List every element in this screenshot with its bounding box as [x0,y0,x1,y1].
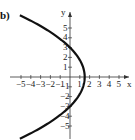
x-tick-label: −5 [16,80,26,89]
y-tick-label: −2 [60,92,70,101]
x-tick-label: 1 [77,80,82,89]
y-tick-label: −3 [60,102,70,111]
x-tick-label: 5 [117,80,122,89]
x-tick-label: 4 [107,80,112,89]
x-tick-label: −3 [36,80,46,89]
y-tick-label: 5 [63,24,68,33]
y-tick-label: 4 [63,33,68,42]
y-tick-label: 3 [63,43,68,52]
y-tick-label: −4 [60,112,70,121]
x-tick-label: 3 [97,80,102,89]
x-tick-label: 2 [87,80,92,89]
x-tick-label: −2 [45,80,55,89]
y-tick-label: 2 [63,53,68,62]
x-tick-label: −4 [26,80,36,89]
y-tick-label: −5 [60,122,70,131]
y-axis-arrow-icon [68,12,72,17]
y-tick-label: 1 [63,63,68,72]
y-tick-label: −1 [60,82,70,91]
x-axis-label: x [127,80,132,89]
y-axis-label: y [61,8,66,17]
